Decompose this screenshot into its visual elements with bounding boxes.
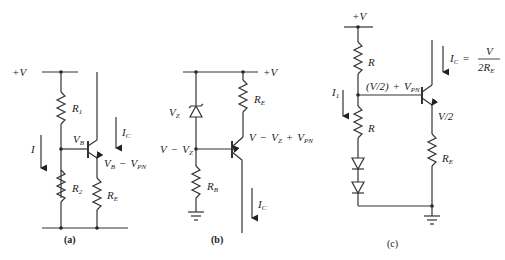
ve-label-c: V/2 xyxy=(438,110,454,122)
r-top-label: R xyxy=(367,56,375,68)
panel-c: +V R (V/2)+VPN I1 R xyxy=(331,10,500,250)
zener-diode xyxy=(190,106,202,117)
ic-label-c: IC= xyxy=(449,52,470,66)
ground-icon-b xyxy=(188,212,204,220)
caption-b: (b) xyxy=(211,234,223,246)
i1-label: I1 xyxy=(331,86,339,100)
resistor-re-a xyxy=(93,178,101,210)
r-bottom-label: R xyxy=(367,122,375,134)
panel-b: +V VZ V−VZ RB RE V−VZ+VPN xyxy=(160,66,313,246)
resistor-r-bottom xyxy=(354,106,362,138)
vz-label: VZ xyxy=(169,106,180,120)
supply-label-b: +V xyxy=(263,66,278,78)
diode-2 xyxy=(352,182,364,193)
re-label-c: RE xyxy=(441,152,454,166)
circuit-figure: +V R1 VB RE R2 IC I VB−VPN ( xyxy=(0,0,505,260)
ground-icon-c xyxy=(424,216,440,224)
ic-label-b: IC xyxy=(257,198,267,212)
caption-a: (a) xyxy=(64,234,76,246)
resistor-re-c xyxy=(428,134,436,166)
caption-c: (c) xyxy=(387,238,398,250)
vbase-label-c: (V/2)+VPN xyxy=(366,80,420,94)
resistor-r-top xyxy=(354,42,362,74)
supply-label-c: +V xyxy=(352,10,367,22)
rb-label: RB xyxy=(206,180,219,194)
ve-label-a: VB−VPN xyxy=(104,157,146,171)
ic-label-a: IC xyxy=(121,126,131,140)
r1-label: R1 xyxy=(71,102,82,116)
resistor-rb xyxy=(192,166,200,198)
supply-label-a: +V xyxy=(12,66,27,78)
resistor-r1 xyxy=(57,92,65,124)
ve-label-b: V−VZ+VPN xyxy=(249,131,313,145)
i-label-a: I xyxy=(30,143,36,155)
vb-label: VB xyxy=(73,133,85,147)
panel-a: +V R1 VB RE R2 IC I VB−VPN ( xyxy=(12,66,146,246)
vbase-label-b: V−VZ xyxy=(160,143,193,157)
re-label-a: RE xyxy=(106,189,119,203)
diode-1 xyxy=(352,158,364,169)
r2-label: R2 xyxy=(71,182,83,196)
resistor-re-b xyxy=(239,80,247,112)
re-label-b: RE xyxy=(253,93,266,107)
ic-denominator: 2RE xyxy=(478,61,495,75)
ic-numerator: V xyxy=(486,45,494,57)
